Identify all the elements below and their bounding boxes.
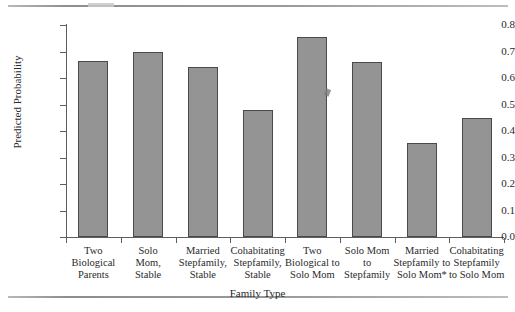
x-category-line: Stable bbox=[117, 269, 180, 281]
x-tick-mark bbox=[176, 238, 177, 243]
x-category-line: Stable bbox=[226, 269, 289, 281]
x-category-line: Stepfamily bbox=[445, 257, 508, 269]
x-category-line: Stable bbox=[172, 269, 235, 281]
x-category-line: Solo Mom* bbox=[391, 269, 454, 281]
y-tick-mark bbox=[60, 131, 66, 132]
y-axis-title: Predicted Probability bbox=[11, 27, 23, 177]
page-rule-top bbox=[8, 5, 508, 7]
y-tick-mark bbox=[60, 105, 66, 106]
y-tick-mark bbox=[60, 158, 66, 159]
x-category-line: Mom, bbox=[117, 257, 180, 269]
y-tick-mark bbox=[60, 52, 66, 53]
bar bbox=[462, 118, 492, 237]
x-category-label: MarriedStepfamily,Stable bbox=[172, 245, 235, 281]
scan-speck bbox=[324, 88, 331, 96]
bar bbox=[78, 61, 108, 237]
x-category-line: Two bbox=[281, 245, 344, 257]
x-axis-title: Family Type bbox=[0, 287, 515, 299]
x-category-label: CohabitatingStepfamilyto Solo Mom bbox=[445, 245, 508, 281]
y-tick-mark bbox=[60, 78, 66, 79]
y-tick-mark bbox=[60, 25, 66, 26]
x-category-line: Solo Mom bbox=[281, 269, 344, 281]
x-tick-mark bbox=[340, 238, 341, 243]
y-tick-mark bbox=[60, 211, 66, 212]
bar bbox=[133, 52, 163, 238]
y-axis-line bbox=[66, 24, 67, 238]
y-tick-label: 0.6 bbox=[461, 71, 515, 83]
scan-smudge bbox=[88, 3, 114, 7]
x-category-line: Solo bbox=[117, 245, 180, 257]
x-category-label: MarriedStepfamily toSolo Mom* bbox=[391, 245, 454, 281]
x-category-line: Parents bbox=[62, 269, 125, 281]
bar bbox=[188, 67, 218, 237]
x-category-label: CohabitatingStepfamily,Stable bbox=[226, 245, 289, 281]
x-category-line: Cohabitating bbox=[226, 245, 289, 257]
x-category-line: Stepfamily bbox=[336, 269, 399, 281]
x-category-line: Cohabitating bbox=[445, 245, 508, 257]
x-tick-mark bbox=[66, 238, 67, 243]
x-category-line: Stepfamily, bbox=[172, 257, 235, 269]
bar bbox=[297, 37, 327, 237]
x-category-label: SoloMom,Stable bbox=[117, 245, 180, 281]
x-tick-mark bbox=[449, 238, 450, 243]
x-tick-mark bbox=[285, 238, 286, 243]
x-category-line: Stepfamily, bbox=[226, 257, 289, 269]
bar bbox=[352, 62, 382, 237]
x-tick-mark bbox=[504, 238, 505, 243]
x-category-line: to bbox=[336, 257, 399, 269]
x-category-label: TwoBiologicalParents bbox=[62, 245, 125, 281]
y-tick-label: 0.7 bbox=[461, 45, 515, 57]
x-category-line: Biological to bbox=[281, 257, 344, 269]
y-tick-label: 0.5 bbox=[461, 98, 515, 110]
chart-page: Predicted Probability 0.80.70.60.50.40.3… bbox=[0, 0, 515, 312]
x-category-line: Married bbox=[391, 245, 454, 257]
x-category-line: to Solo Mom bbox=[445, 269, 508, 281]
x-tick-mark bbox=[121, 238, 122, 243]
x-category-line: Two bbox=[62, 245, 125, 257]
x-tick-mark bbox=[230, 238, 231, 243]
x-category-line: Solo Mom bbox=[336, 245, 399, 257]
x-category-label: TwoBiological toSolo Mom bbox=[281, 245, 344, 281]
x-category-line: Stepfamily to bbox=[391, 257, 454, 269]
bar bbox=[243, 110, 273, 237]
x-tick-mark bbox=[395, 238, 396, 243]
y-tick-label: 0.8 bbox=[461, 18, 515, 30]
bar bbox=[407, 143, 437, 237]
x-category-line: Biological bbox=[62, 257, 125, 269]
x-category-line: Married bbox=[172, 245, 235, 257]
y-tick-mark bbox=[60, 184, 66, 185]
x-category-label: Solo MomtoStepfamily bbox=[336, 245, 399, 281]
